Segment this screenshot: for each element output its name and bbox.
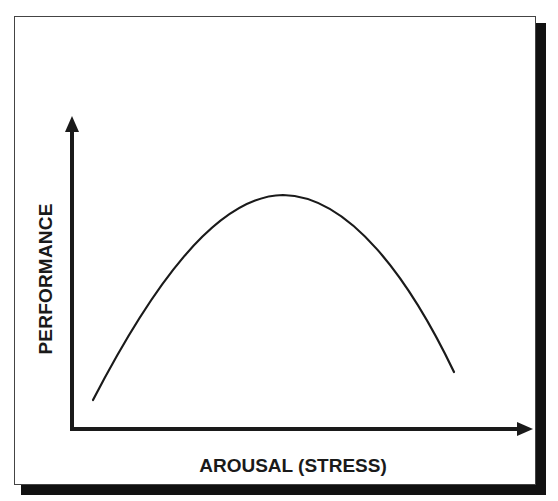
y-axis-label: PERFORMANCE (35, 203, 57, 354)
y-axis-arrow-icon (65, 116, 79, 132)
x-axis-label: AROUSAL (STRESS) (199, 455, 387, 477)
performance-curve (93, 195, 454, 400)
chart-plot (0, 0, 558, 501)
x-axis-arrow-icon (517, 422, 533, 436)
